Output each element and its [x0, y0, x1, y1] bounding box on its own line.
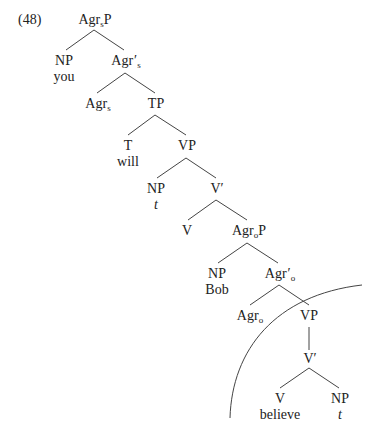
node-np-trace-subject: NP t [147, 181, 165, 213]
node-vbar-upper: V′ [210, 181, 223, 197]
node-agrs-bar: Agr′s [111, 53, 140, 69]
node-sub: s [137, 60, 141, 70]
node-label: V [260, 391, 300, 407]
node-label: V′ [303, 351, 316, 366]
node-label: V [182, 223, 192, 238]
node-v-lower: V believe [260, 391, 300, 423]
node-label: NP [331, 391, 349, 407]
node-sub: s [107, 103, 111, 113]
node-np-trace-object: NP t [331, 391, 349, 423]
node-label: VP [178, 138, 196, 153]
node-word: Bob [205, 282, 228, 298]
node-sub: o [259, 315, 264, 325]
node-sub: o [291, 273, 296, 283]
node-agro: Agro [237, 308, 263, 324]
node-label: Agr [85, 96, 107, 111]
node-word: believe [260, 407, 300, 423]
node-agro-bar: Agr′o [265, 266, 295, 282]
node-label: Agr [78, 12, 100, 27]
node-label: VP [300, 308, 318, 323]
node-label: NP [205, 266, 228, 282]
node-label: V′ [210, 181, 223, 196]
node-vbar-lower: V′ [303, 351, 316, 367]
node-agrsp: AgrsP [78, 12, 111, 28]
node-label: Agr [232, 223, 254, 238]
node-word: you [54, 69, 75, 85]
node-vp-lower: VP [300, 308, 318, 324]
node-v-upper: V [182, 223, 192, 239]
node-tp: TP [148, 96, 164, 112]
node-label: TP [148, 96, 164, 111]
node-vp-upper: VP [178, 138, 196, 154]
node-label: T [117, 138, 139, 154]
node-label: NP [54, 53, 75, 69]
node-agrop: AgroP [232, 223, 266, 239]
node-label: Agr [111, 53, 133, 68]
node-label: NP [147, 181, 165, 197]
node-word: t [331, 407, 349, 423]
node-suffix: P [104, 12, 112, 27]
node-agrs: Agrs [85, 96, 110, 112]
node-t: T will [117, 138, 139, 170]
node-label: Agr [265, 266, 287, 281]
node-word: t [147, 197, 165, 213]
node-np-object: NP Bob [205, 266, 228, 298]
node-word: will [117, 154, 139, 170]
node-suffix: P [258, 223, 266, 238]
node-np-subject: NP you [54, 53, 75, 85]
node-label: Agr [237, 308, 259, 323]
